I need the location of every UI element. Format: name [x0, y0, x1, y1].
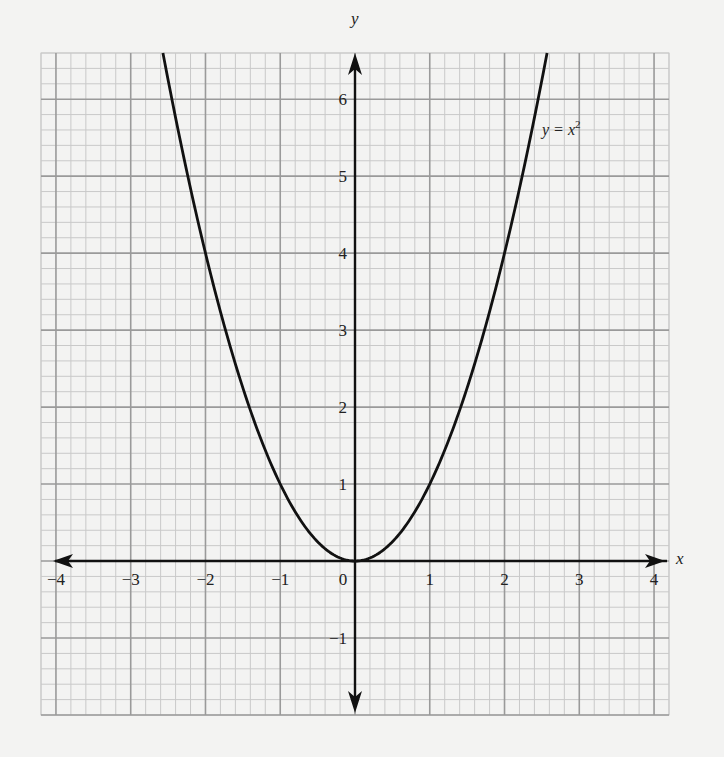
y-tick-label: 6: [339, 90, 348, 109]
curve-label: y = x2: [540, 118, 581, 139]
x-tick-label: 2: [500, 570, 509, 589]
x-tick-label: 0: [339, 570, 348, 589]
curve-label-base: y = x: [540, 121, 575, 139]
x-tick-label: 1: [426, 570, 435, 589]
axes: [53, 53, 667, 713]
x-tick-label: 3: [575, 570, 584, 589]
x-tick-label: −4: [47, 570, 66, 589]
y-tick-label: 2: [339, 398, 348, 417]
y-tick-label: −1: [329, 629, 347, 648]
y-tick-label: 3: [339, 321, 348, 340]
x-tick-label: 4: [650, 570, 659, 589]
tick-labels: −4−3−2−101234−1123456: [47, 90, 659, 648]
y-tick-label: 1: [339, 475, 348, 494]
x-tick-label: −2: [196, 570, 214, 589]
x-axis-label: x: [675, 549, 684, 568]
parabola-chart: −4−3−2−101234−1123456 x y y = x2: [0, 0, 724, 757]
x-tick-label: −3: [122, 570, 140, 589]
y-tick-label: 5: [339, 167, 348, 186]
x-tick-label: −1: [271, 570, 289, 589]
y-axis-label: y: [349, 9, 359, 28]
y-tick-label: 4: [339, 244, 348, 263]
curve-label-superscript: 2: [575, 118, 581, 130]
chart-root: −4−3−2−101234−1123456 x y y = x2: [0, 0, 724, 757]
